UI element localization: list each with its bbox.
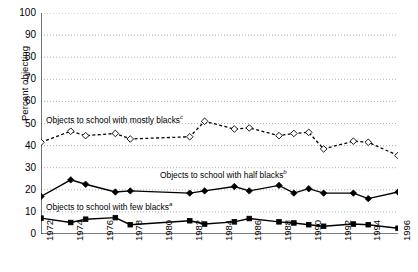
- data-point: [82, 132, 89, 139]
- x-tick-1976: 1976: [105, 220, 115, 241]
- x-tick-1986: 1986: [253, 220, 263, 241]
- y-tick-40: 40: [8, 141, 36, 151]
- data-point: [291, 190, 297, 196]
- x-tick-1990: 1990: [313, 220, 323, 241]
- data-point: [350, 190, 356, 196]
- y-tick-100: 100: [8, 8, 36, 18]
- y-tick-70: 70: [8, 74, 36, 84]
- data-point: [306, 222, 311, 227]
- data-point: [68, 220, 73, 225]
- data-point: [187, 218, 192, 223]
- x-tick-1988: 1988: [283, 220, 293, 241]
- data-point: [112, 130, 119, 137]
- data-point: [201, 188, 207, 194]
- x-tick-1992: 1992: [343, 220, 353, 241]
- data-point: [127, 136, 134, 143]
- x-tick-1978: 1978: [134, 220, 144, 241]
- y-tick-20: 20: [8, 185, 36, 195]
- data-point: [247, 216, 252, 221]
- data-point: [246, 125, 253, 132]
- footnote-marker: b: [283, 169, 286, 175]
- data-point: [350, 138, 357, 145]
- data-point: [366, 222, 371, 227]
- chart-container: Percent objecting 0102030405060708090100…: [0, 0, 418, 272]
- data-point: [41, 216, 43, 221]
- x-tick-1982: 1982: [194, 220, 204, 241]
- y-tick-50: 50: [8, 119, 36, 129]
- data-point: [277, 220, 282, 225]
- footnote-marker: c: [180, 114, 183, 120]
- x-tick-1994: 1994: [372, 220, 382, 241]
- data-point: [41, 139, 44, 146]
- y-tick-0: 0: [8, 229, 36, 239]
- data-point: [365, 139, 372, 146]
- data-point: [186, 133, 193, 140]
- data-point: [128, 222, 133, 227]
- y-tick-60: 60: [8, 96, 36, 106]
- series-label-0: Objects to school with mostly blacksc: [46, 114, 183, 125]
- x-tick-1984: 1984: [224, 220, 234, 241]
- data-point: [396, 226, 398, 231]
- data-point: [365, 195, 371, 201]
- series-line-0: [41, 121, 398, 155]
- data-point: [306, 185, 312, 191]
- data-point: [68, 177, 74, 183]
- series-label-1: Objects to school with half blacksb: [160, 169, 287, 180]
- y-tick-90: 90: [8, 30, 36, 40]
- y-tick-30: 30: [8, 163, 36, 173]
- data-point: [395, 152, 398, 159]
- data-point: [187, 190, 193, 196]
- series-line-1: [41, 180, 398, 199]
- data-point: [127, 188, 133, 194]
- data-point: [291, 130, 298, 137]
- y-tick-80: 80: [8, 52, 36, 62]
- data-point: [320, 190, 326, 196]
- series-1: [41, 177, 398, 202]
- data-point: [231, 183, 237, 189]
- data-point: [231, 126, 238, 133]
- x-tick-1996: 1996: [402, 220, 412, 241]
- data-point: [246, 188, 252, 194]
- data-point: [67, 128, 74, 135]
- y-tick-10: 10: [8, 207, 36, 217]
- x-tick-1972: 1972: [45, 220, 55, 241]
- data-point: [276, 132, 283, 139]
- data-point: [82, 181, 88, 187]
- series-label-2: Objects to school with few blacksa: [46, 201, 172, 212]
- data-point: [276, 182, 282, 188]
- x-tick-1974: 1974: [75, 220, 85, 241]
- footnote-marker: a: [169, 201, 172, 207]
- y-axis-tick-labels: 0102030405060708090100: [0, 0, 36, 272]
- x-tick-1980: 1980: [164, 220, 174, 241]
